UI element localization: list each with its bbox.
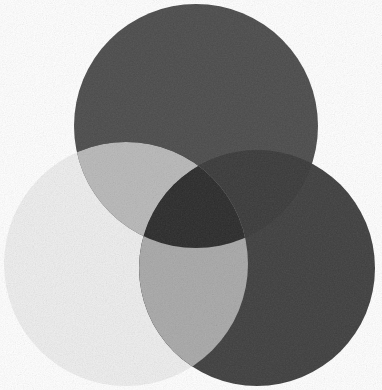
venn-diagram-figure (0, 0, 382, 390)
venn-diagram-canvas (0, 0, 382, 390)
